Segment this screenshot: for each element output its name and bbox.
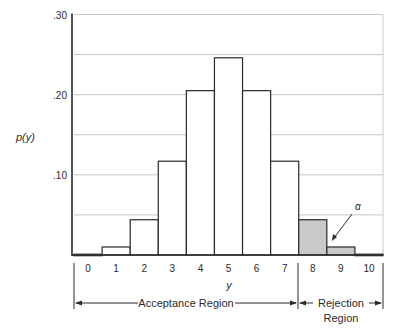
y-axis-label: p(y) bbox=[15, 131, 35, 143]
x-tick-label: 8 bbox=[310, 263, 316, 274]
alpha-annotation: α bbox=[332, 201, 361, 241]
bar-5 bbox=[214, 58, 242, 255]
bar-4 bbox=[186, 91, 214, 255]
bar-1 bbox=[102, 247, 130, 255]
x-tick-label: 0 bbox=[85, 263, 91, 274]
x-tick-label: 5 bbox=[226, 263, 232, 274]
x-tick-label: 10 bbox=[363, 263, 375, 274]
x-tick-label: 2 bbox=[141, 263, 147, 274]
arrowhead-right-icon bbox=[290, 301, 297, 306]
bar-3 bbox=[158, 161, 186, 255]
bars bbox=[74, 58, 383, 256]
alpha-arrow bbox=[334, 214, 352, 238]
y-tick-label: .30 bbox=[53, 10, 67, 21]
x-tick-label: 3 bbox=[170, 263, 176, 274]
x-tick-label: 1 bbox=[113, 263, 119, 274]
x-tick-label: 7 bbox=[282, 263, 288, 274]
y-tick-label: .20 bbox=[53, 90, 67, 101]
y-tick-labels: .10.20.30 bbox=[53, 10, 67, 181]
arrowhead-left-icon bbox=[75, 301, 82, 306]
rejection-region-label: Rejection bbox=[318, 297, 364, 309]
rejection-region-label-line2: Region bbox=[324, 312, 359, 324]
x-tick-label: 4 bbox=[198, 263, 204, 274]
alpha-label: α bbox=[355, 201, 361, 212]
bar-7 bbox=[271, 161, 299, 255]
arrowhead-left-icon bbox=[299, 301, 306, 306]
arrowhead-right-icon bbox=[375, 301, 382, 306]
x-axis-label: y bbox=[225, 279, 233, 291]
bar-6 bbox=[243, 91, 271, 255]
bar-2 bbox=[130, 220, 158, 255]
x-tick-label: 9 bbox=[338, 263, 344, 274]
bar-8 bbox=[299, 220, 327, 255]
x-tick-labels: 012345678910 bbox=[85, 263, 375, 274]
bar-9 bbox=[327, 247, 355, 255]
x-tick-label: 6 bbox=[254, 263, 260, 274]
probability-histogram: .10.20.30 012345678910 p(y) y α Acceptan… bbox=[0, 0, 396, 336]
y-tick-label: .10 bbox=[53, 170, 67, 181]
acceptance-region-label: Acceptance Region bbox=[138, 297, 233, 309]
